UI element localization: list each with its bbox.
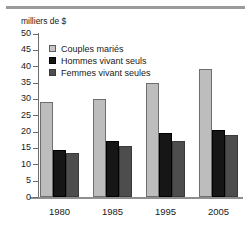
y-axis-tick-label-wrap: 35 [0, 78, 31, 87]
bar [159, 133, 172, 197]
legend-swatch-icon-men-living-alone [49, 57, 56, 64]
y-axis-tick [33, 34, 38, 35]
y-axis-tick-label: 10 [3, 160, 31, 169]
y-axis-tick-label-wrap: 30 [0, 94, 31, 103]
legend-item-0: Couples mariés [49, 43, 151, 54]
bar [93, 99, 106, 197]
bar-chart-figure: milliers de $ 05101520253035404550 Coupl… [0, 0, 251, 243]
y-axis-tick-label-wrap: 0 [0, 193, 31, 202]
y-axis-tick-label: 35 [3, 78, 31, 87]
legend-swatch-icon-women-living-alone [49, 69, 56, 76]
bar [212, 130, 225, 197]
y-axis-tick-label: 5 [3, 176, 31, 185]
legend-item-2: Femmes vivant seules [49, 67, 151, 78]
legend-label-2: Femmes vivant seules [61, 68, 151, 78]
x-axis-category-label: 2005 [199, 206, 239, 217]
y-axis-tick-label: 20 [3, 127, 31, 136]
y-axis-tick-label: 15 [3, 143, 31, 152]
y-axis-tick [33, 50, 38, 51]
legend-label-1: Hommes vivant seuls [61, 56, 147, 66]
legend-label-0: Couples mariés [61, 44, 124, 54]
bar [146, 83, 159, 197]
y-axis-tick [33, 197, 38, 198]
bar [225, 135, 238, 197]
x-axis-category-label: 1985 [93, 206, 133, 217]
y-axis-tick [33, 132, 38, 133]
bar [66, 153, 79, 197]
y-axis-tick-label-wrap: 50 [0, 29, 31, 38]
y-axis-tick-label-wrap: 15 [0, 143, 31, 152]
y-axis-tick [33, 99, 38, 100]
x-axis-category-label: 1995 [146, 206, 186, 217]
bar [106, 141, 119, 197]
bar [40, 102, 53, 197]
chart-legend: Couples mariés Hommes vivant seuls Femme… [49, 43, 151, 79]
y-axis-tick [33, 115, 38, 116]
y-axis-tick-label-wrap: 40 [0, 62, 31, 71]
bar [172, 141, 185, 197]
y-axis-tick [33, 181, 38, 182]
y-axis-tick-label: 45 [3, 45, 31, 54]
y-axis-line [38, 33, 39, 198]
bar [119, 146, 132, 197]
y-axis-tick [33, 148, 38, 149]
y-axis-tick-label-wrap: 5 [0, 176, 31, 185]
y-axis-tick-label: 50 [3, 29, 31, 38]
y-axis-tick-label-wrap: 10 [0, 160, 31, 169]
legend-item-1: Hommes vivant seuls [49, 55, 151, 66]
legend-swatch-icon-married-couples [49, 45, 56, 52]
x-axis-category-label: 1980 [40, 206, 80, 217]
y-axis-tick-label-wrap: 25 [0, 111, 31, 120]
y-axis-tick [33, 83, 38, 84]
y-axis-tick [33, 164, 38, 165]
y-axis-tick-label: 30 [3, 94, 31, 103]
bar [53, 150, 66, 197]
y-axis-tick [33, 66, 38, 67]
y-axis-tick-label-wrap: 20 [0, 127, 31, 136]
y-axis-tick-label: 40 [3, 62, 31, 71]
y-axis-tick-label-wrap: 45 [0, 45, 31, 54]
x-axis-line [30, 197, 243, 199]
bar [199, 69, 212, 197]
y-axis-tick-label: 0 [3, 193, 31, 202]
y-axis-tick-label: 25 [3, 111, 31, 120]
